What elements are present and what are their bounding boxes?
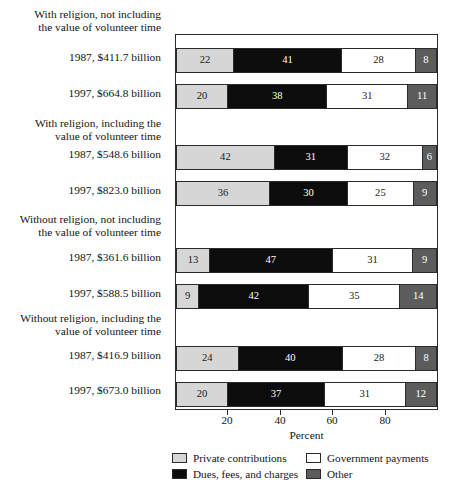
bar-segment-dues: 47 [210,248,333,273]
bar-row: 36 30 25 9 [176,181,437,206]
legend-swatch-dues-icon [172,469,187,479]
group-heading-line2: value of volunteer time [0,325,161,338]
row-label-1997-673-0: 1997, $673.0 billion [0,384,168,397]
row-label-1987-548-6: 1987, $548.6 billion [0,148,168,161]
group-heading-line1: Without religion, including the [0,312,161,325]
legend-item-private-contributions: Private contributions [172,452,306,464]
bar-segment-dues: 42 [199,284,309,309]
x-tick-label-20: 20 [207,414,247,426]
bar-segment-other: 8 [416,48,437,73]
bar-segment-dues: 40 [239,346,343,371]
stacked-bar-chart: With religion, not including the value o… [0,0,456,499]
group-heading-line2: value of volunteer time [0,130,161,143]
bar-segment-private: 42 [176,145,275,170]
bar-segment-private: 13 [176,248,210,273]
bar-row: 22 41 28 8 [176,48,437,73]
legend-label: Dues, fees, and charges [193,468,298,480]
bar-segment-private: 20 [176,84,228,109]
bar-segment-private: 36 [176,181,270,206]
plot-area: 22 41 28 8 20 38 31 11 42 31 32 6 36 30 … [175,34,438,410]
group-heading-line2: the value of volunteer time [0,21,161,34]
legend: Private contributions Government payment… [172,452,456,484]
bar-row: 20 37 31 12 [176,382,437,407]
row-label-1997-823-0: 1997, $823.0 billion [0,184,168,197]
group-heading-line1: With religion, not including [0,8,161,21]
bar-segment-government: 31 [325,382,406,407]
x-tick-label-40: 40 [260,414,300,426]
legend-item-other: Other [306,468,456,480]
row-label-1997-664-8: 1997, $664.8 billion [0,87,168,100]
bar-segment-other: 12 [406,382,437,407]
legend-item-dues-fees-charges: Dues, fees, and charges [172,468,306,480]
bar-row: 24 40 28 8 [176,346,437,371]
bar-segment-government: 25 [348,181,413,206]
legend-row: Dues, fees, and charges Other [172,468,456,480]
bar-segment-government: 31 [327,84,408,109]
row-label-1997-588-5: 1997, $588.5 billion [0,287,168,300]
bar-segment-other: 6 [423,145,437,170]
group-heading-with-religion-incl-volunteer: With religion, including the value of vo… [0,117,168,143]
bar-row: 20 38 31 11 [176,84,437,109]
bar-segment-other: 9 [413,248,436,273]
group-heading-line1: With religion, including the [0,117,161,130]
bar-segment-dues: 31 [275,145,348,170]
bar-segment-dues: 30 [270,181,348,206]
bar-segment-private: 24 [176,346,239,371]
group-heading-without-religion-incl-volunteer: Without religion, including the value of… [0,312,168,338]
bar-segment-private: 20 [176,382,228,407]
bar-segment-dues: 38 [228,84,327,109]
bar-segment-government: 32 [348,145,423,170]
group-heading-with-religion-excl-volunteer: With religion, not including the value o… [0,8,168,34]
row-label-1987-361-6: 1987, $361.6 billion [0,251,168,264]
bar-segment-government: 28 [343,346,416,371]
legend-swatch-private-icon [172,453,187,463]
legend-swatch-other-icon [306,469,321,479]
bar-segment-government: 31 [333,248,414,273]
bar-row: 13 47 31 9 [176,248,437,273]
group-heading-line1: Without religion, not including [0,213,161,226]
bar-segment-other: 9 [414,181,437,206]
group-heading-without-religion-excl-volunteer: Without religion, not including the valu… [0,213,168,239]
row-label-1987-411-7: 1987, $411.7 billion [0,51,168,64]
bar-row: 9 42 35 14 [176,284,437,309]
bar-segment-other: 8 [416,346,437,371]
group-heading-line2: the value of volunteer time [0,226,161,239]
legend-label: Private contributions [193,452,287,464]
legend-swatch-government-icon [306,453,321,463]
x-tick-label-80: 80 [365,414,405,426]
legend-label: Other [327,468,352,480]
legend-item-government-payments: Government payments [306,452,456,464]
bar-segment-dues: 41 [234,48,342,73]
bar-segment-dues: 37 [228,382,325,407]
x-tick-label-60: 60 [312,414,352,426]
bar-segment-other: 11 [408,84,437,109]
bar-segment-other: 14 [400,284,437,309]
x-axis-title: Percent [175,429,438,441]
legend-label: Government payments [327,452,429,464]
legend-row: Private contributions Government payment… [172,452,456,464]
bar-row: 42 31 32 6 [176,145,437,170]
row-label-1987-416-9: 1987, $416.9 billion [0,349,168,362]
bar-segment-government: 35 [309,284,400,309]
bar-segment-government: 28 [342,48,416,73]
bar-segment-private: 22 [176,48,234,73]
bar-segment-private: 9 [176,284,199,309]
